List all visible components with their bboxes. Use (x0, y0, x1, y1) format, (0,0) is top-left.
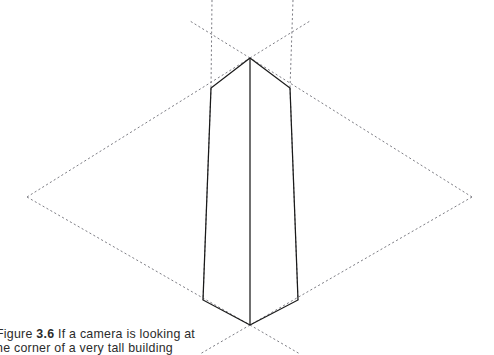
figure-caption-line-2: he corner of a very tall building (0, 341, 236, 355)
figure-caption-label: Figure (0, 327, 33, 341)
figure-caption-number: 3.6 (36, 327, 54, 341)
construction-line-vertical-right-guide (290, 0, 293, 88)
construction-line-right-vp-to-apex (250, 58, 472, 197)
construction-line-vertical-left-guide (211, 0, 212, 88)
figure-caption: Figure 3.6 If a camera is looking at he … (0, 327, 236, 355)
construction-line-apex-up-left (190, 21, 250, 58)
construction-line-apex-up-right (250, 21, 310, 58)
figure-caption-line-1: Figure 3.6 If a camera is looking at (0, 327, 236, 342)
building-right-face (250, 58, 298, 325)
construction-line-base-down-right (250, 325, 300, 354)
figure-caption-text-1: If a camera is looking at (58, 327, 195, 341)
building-left-face (203, 58, 250, 325)
building-outline-group (203, 58, 298, 325)
construction-line-left-vp-to-base (27, 197, 250, 325)
perspective-diagram (0, 0, 494, 355)
figure-container: Figure 3.6 If a camera is looking at he … (0, 0, 494, 355)
construction-line-right-vp-to-base (250, 197, 472, 325)
construction-line-left-vp-to-apex (27, 58, 250, 197)
